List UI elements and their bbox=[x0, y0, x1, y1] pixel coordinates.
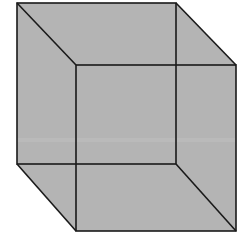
shading-band bbox=[17, 138, 236, 142]
cube-diagram bbox=[0, 0, 242, 237]
cube-figure bbox=[0, 0, 242, 237]
